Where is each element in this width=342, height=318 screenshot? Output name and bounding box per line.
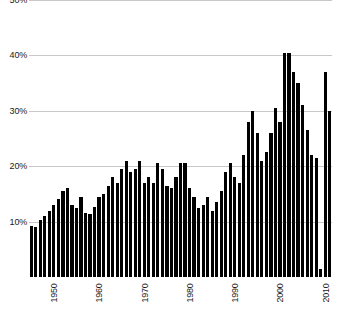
bar <box>306 130 309 277</box>
bar <box>170 188 173 277</box>
bar <box>66 188 69 277</box>
bar <box>161 169 164 277</box>
bar <box>30 226 33 277</box>
bar <box>165 186 168 277</box>
x-axis-tick-label: 2000 <box>275 283 285 302</box>
bar <box>97 197 100 277</box>
bar <box>220 191 223 277</box>
bar <box>296 83 299 277</box>
bar <box>233 177 236 277</box>
y-axis-tick-label: 10% <box>0 218 27 227</box>
bar <box>52 205 55 277</box>
x-axis-tick-label: 2010 <box>320 283 330 302</box>
bar <box>211 211 214 277</box>
bar <box>274 108 277 277</box>
bar <box>310 155 313 277</box>
bar <box>215 202 218 277</box>
bar <box>129 172 132 277</box>
x-axis-tick: 1970 <box>124 277 164 300</box>
x-axis-tick-label: 1960 <box>94 283 104 302</box>
x-axis-tick: 1960 <box>79 277 119 300</box>
bar <box>287 53 290 277</box>
bar <box>79 197 82 277</box>
bar <box>260 161 263 277</box>
bar <box>84 213 87 277</box>
bar <box>48 211 51 277</box>
bar <box>93 207 96 277</box>
bar <box>242 155 245 277</box>
bar <box>256 133 259 277</box>
bar <box>247 122 250 277</box>
bar <box>116 183 119 277</box>
bar <box>111 177 114 277</box>
y-axis-tick-label: 40% <box>0 51 27 60</box>
bar <box>238 183 241 277</box>
bar <box>197 208 200 277</box>
x-axis-tick: 1950 <box>34 277 74 300</box>
bar <box>183 163 186 277</box>
bar <box>174 177 177 277</box>
bar <box>292 72 295 277</box>
x-axis: 1950196019701980199020002010 <box>29 277 332 318</box>
bar <box>179 163 182 277</box>
bar <box>70 205 73 277</box>
bar-chart: 50%40%30%20%10% 195019601970198019902000… <box>0 0 342 318</box>
x-axis-tick: 1990 <box>215 277 255 300</box>
bar <box>188 188 191 277</box>
bar <box>88 214 91 277</box>
gridline <box>29 0 332 1</box>
bar <box>134 169 137 277</box>
x-axis-tick: 2010 <box>305 277 342 300</box>
bar <box>224 172 227 277</box>
bar <box>301 105 304 277</box>
bar <box>192 197 195 277</box>
bar <box>138 161 141 277</box>
bar <box>39 220 42 277</box>
bar <box>324 72 327 277</box>
bar <box>107 186 110 277</box>
plot-area <box>29 0 332 277</box>
x-axis-tick-label: 1990 <box>230 283 240 302</box>
y-axis: 50%40%30%20%10% <box>0 0 27 277</box>
bar <box>102 194 105 277</box>
bar <box>278 122 281 277</box>
bar <box>229 163 232 277</box>
bar <box>206 197 209 277</box>
bar <box>57 199 60 277</box>
bar <box>43 216 46 277</box>
x-axis-tick-label: 1950 <box>49 283 59 302</box>
bar <box>125 161 128 277</box>
bar <box>147 177 150 277</box>
x-axis-tick-label: 1970 <box>139 283 149 302</box>
x-axis-tick: 2000 <box>260 277 300 300</box>
bar <box>143 183 146 277</box>
bar <box>61 191 64 277</box>
bar <box>283 53 286 277</box>
bar <box>156 163 159 277</box>
bar <box>315 158 318 277</box>
bar <box>34 227 37 277</box>
y-axis-tick-label: 30% <box>0 107 27 116</box>
x-axis-tick: 1980 <box>170 277 210 300</box>
y-axis-tick-label: 20% <box>0 162 27 171</box>
bar <box>328 111 331 277</box>
bar <box>319 269 322 277</box>
bar <box>265 152 268 277</box>
bar <box>120 169 123 277</box>
bar <box>75 208 78 277</box>
bar <box>152 183 155 277</box>
bar <box>251 111 254 277</box>
bar <box>202 205 205 277</box>
y-axis-tick-label: 50% <box>0 0 27 5</box>
bar <box>269 133 272 277</box>
x-axis-tick-label: 1980 <box>185 283 195 302</box>
